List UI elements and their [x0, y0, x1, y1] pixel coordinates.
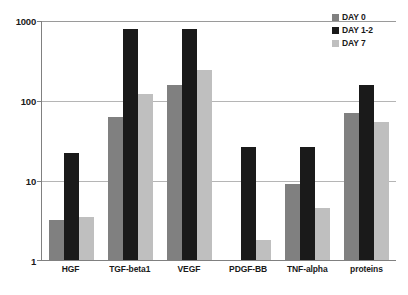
- bar: [138, 94, 153, 260]
- legend-swatch-icon: [332, 14, 339, 21]
- legend-item: DAY 1-2: [332, 25, 373, 35]
- x-axis-label: TNF-alpha: [278, 264, 337, 274]
- bar-group: [42, 21, 101, 260]
- bar: [256, 240, 271, 260]
- bar: [49, 220, 64, 260]
- bars: [337, 21, 396, 260]
- legend-swatch-icon: [332, 27, 339, 34]
- legend-label: DAY 0: [342, 12, 366, 22]
- y-axis-label: 1: [0, 256, 36, 267]
- x-axis-label: HGF: [41, 264, 100, 274]
- legend: DAY 0DAY 1-2DAY 7: [332, 12, 373, 48]
- x-axis-label: VEGF: [159, 264, 218, 274]
- legend-label: DAY 1-2: [342, 25, 373, 35]
- bars: [278, 21, 337, 260]
- legend-item: DAY 7: [332, 38, 373, 48]
- y-axis: 1101001000: [0, 21, 38, 261]
- bar: [123, 29, 138, 260]
- bar: [300, 147, 315, 260]
- bar: [315, 208, 330, 260]
- bars: [42, 21, 101, 260]
- bar-chart: 1101001000 HGFTGF-beta1VEGFPDGF-BBTNF-al…: [0, 0, 408, 295]
- bars: [219, 21, 278, 260]
- bar-group: [160, 21, 219, 260]
- bar-group: [101, 21, 160, 260]
- bar: [374, 122, 389, 260]
- bar-groups: [42, 21, 396, 260]
- x-axis-label: PDGF-BB: [219, 264, 278, 274]
- bar: [108, 117, 123, 260]
- bar-group: [337, 21, 396, 260]
- legend-swatch-icon: [332, 40, 339, 47]
- bar-group: [219, 21, 278, 260]
- bar: [182, 29, 197, 260]
- bar: [64, 153, 79, 260]
- bars: [160, 21, 219, 260]
- x-axis-label: proteins: [337, 264, 396, 274]
- legend-item: DAY 0: [332, 12, 373, 22]
- bar: [197, 70, 212, 260]
- bar: [344, 113, 359, 260]
- bars: [101, 21, 160, 260]
- x-axis-label: TGF-beta1: [100, 264, 159, 274]
- plot-area: [41, 21, 396, 261]
- y-axis-label: 100: [0, 96, 36, 107]
- bar: [241, 147, 256, 260]
- bar: [167, 85, 182, 260]
- y-axis-label: 1000: [0, 16, 36, 27]
- bar: [285, 184, 300, 260]
- legend-label: DAY 7: [342, 38, 366, 48]
- y-axis-label: 10: [0, 176, 36, 187]
- bar: [359, 85, 374, 260]
- x-axis: HGFTGF-beta1VEGFPDGF-BBTNF-alphaproteins: [41, 264, 396, 274]
- y-tick-1: [37, 260, 42, 261]
- bar-group: [278, 21, 337, 260]
- bar: [79, 217, 94, 260]
